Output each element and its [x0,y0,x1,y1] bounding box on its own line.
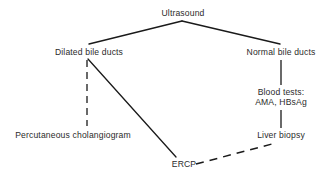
node-dilated-bile-ducts-label: Dilated bile ducts [55,47,123,57]
node-ultrasound-label: Ultrasound [161,8,204,18]
node-percutaneous-cholangiogram: Percutaneous cholangiogram [15,130,131,140]
node-percutaneous-cholangiogram-label: Percutaneous cholangiogram [15,130,131,140]
node-ercp: ERCP [172,159,196,169]
edge-dilated-bile-ducts-to-ercp [88,59,176,157]
node-blood-tests-label: Blood tests: [258,87,305,97]
edge-ultrasound-to-dilated-bile-ducts [89,21,182,44]
node-blood-tests-label-secondary: AMA, HBsAg [255,97,307,107]
edge-ultrasound-to-normal-bile-ducts [182,21,280,44]
edge-ercp-to-liver-biopsy [196,144,272,164]
node-dilated-bile-ducts: Dilated bile ducts [55,47,123,57]
node-normal-bile-ducts: Normal bile ducts [247,47,316,57]
node-liver-biopsy-label: Liver biopsy [257,130,305,140]
node-ercp-label: ERCP [172,159,196,169]
node-ultrasound: Ultrasound [161,8,204,18]
node-normal-bile-ducts-label: Normal bile ducts [247,47,316,57]
node-blood-tests: Blood tests: AMA, HBsAg [255,87,307,107]
node-liver-biopsy: Liver biopsy [257,130,305,140]
diagram-canvas: Ultrasound Dilated bile ducts Normal bil… [0,0,329,179]
